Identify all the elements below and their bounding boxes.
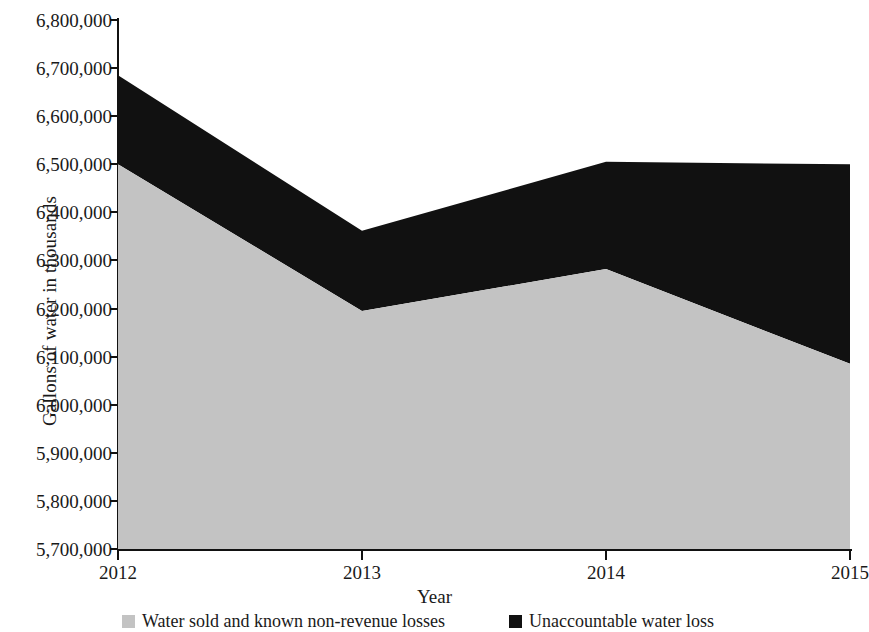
y-tick-label: 6,400,000 — [4, 203, 112, 222]
stacked-area-svg — [118, 14, 851, 550]
legend-item-water-sold: Water sold and known non-revenue losses — [122, 611, 445, 632]
y-axis-tick-labels: 6,800,0006,700,0006,600,0006,500,0006,40… — [0, 0, 112, 632]
y-tick-label: 6,700,000 — [4, 59, 112, 78]
x-tick-label: 2015 — [805, 562, 869, 584]
x-tick-mark — [117, 551, 119, 560]
legend-item-unaccountable-water-loss: Unaccountable water loss — [509, 611, 714, 632]
y-tick-label: 6,800,000 — [4, 11, 112, 30]
y-tick-mark — [110, 115, 118, 117]
chart-legend: Water sold and known non-revenue losses … — [0, 611, 869, 632]
x-tick-label: 2014 — [561, 562, 651, 584]
y-tick-label: 5,700,000 — [4, 540, 112, 559]
legend-swatch-icon-water-sold — [122, 615, 135, 628]
legend-label-unaccountable-water-loss: Unaccountable water loss — [529, 611, 714, 632]
y-tick-label: 6,300,000 — [4, 251, 112, 270]
y-tick-mark — [110, 404, 118, 406]
y-tick-mark — [110, 163, 118, 165]
y-tick-label: 6,100,000 — [4, 347, 112, 366]
x-tick-label: 2013 — [317, 562, 407, 584]
x-tick-mark — [361, 551, 363, 560]
y-tick-mark — [110, 19, 118, 21]
plot-area — [118, 14, 851, 550]
y-tick-label: 5,800,000 — [4, 491, 112, 510]
y-tick-label: 6,600,000 — [4, 107, 112, 126]
y-tick-mark — [110, 356, 118, 358]
x-axis-title: Year — [0, 586, 869, 608]
x-tick-mark — [605, 551, 607, 560]
y-tick-mark — [110, 211, 118, 213]
y-tick-mark — [110, 548, 118, 550]
y-tick-label: 6,500,000 — [4, 155, 112, 174]
area-chart: Gallons of water in thousands 6,800,0006… — [0, 0, 869, 632]
x-tick-label: 2012 — [73, 562, 163, 584]
y-tick-mark — [110, 452, 118, 454]
y-tick-label: 6,200,000 — [4, 299, 112, 318]
y-tick-mark — [110, 308, 118, 310]
legend-label-water-sold: Water sold and known non-revenue losses — [142, 611, 445, 632]
y-tick-mark — [110, 259, 118, 261]
x-tick-mark — [849, 551, 851, 560]
legend-swatch-icon-unaccountable-water-loss — [509, 615, 522, 628]
y-tick-mark — [110, 67, 118, 69]
y-tick-label: 5,900,000 — [4, 443, 112, 462]
y-tick-mark — [110, 500, 118, 502]
y-tick-label: 6,000,000 — [4, 395, 112, 414]
